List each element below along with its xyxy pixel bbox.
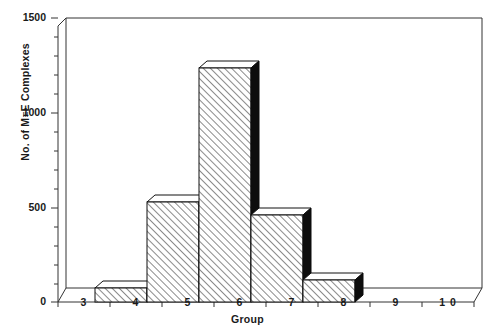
x-tick-label-4: 4 <box>116 296 156 308</box>
bar-group-5 <box>147 195 207 302</box>
x-tick-label-6: 6 <box>220 296 260 308</box>
x-tick-label-9: 9 <box>376 296 416 308</box>
y-tick-label-0: 0 <box>0 295 46 307</box>
y-tick-label-500: 500 <box>0 201 46 213</box>
x-tick-label-10: 1 0 <box>428 296 468 308</box>
x-tick-label-8: 8 <box>324 296 364 308</box>
bar-group-7 <box>251 208 311 302</box>
x-tick-label-5: 5 <box>168 296 208 308</box>
x-tick-label-3: 3 <box>64 296 104 308</box>
bar-group-6 <box>199 61 259 302</box>
x-axis-title: Group <box>0 313 495 325</box>
chart-figure: 1500 1000 500 0 3 4 5 6 7 8 9 1 0 No. of… <box>0 0 495 334</box>
y-axis-title: No. of M≡E Complexes <box>19 17 31 187</box>
x-tick-label-7: 7 <box>272 296 312 308</box>
bar-series <box>0 0 495 334</box>
